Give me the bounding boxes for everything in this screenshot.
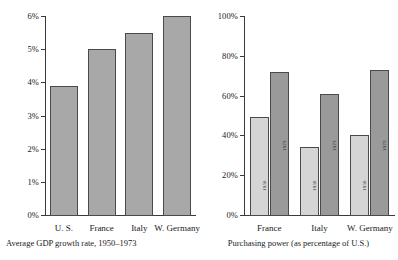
y-axis-tick-label: 20% <box>202 171 238 180</box>
y-axis-tick-label: 6% <box>3 12 39 21</box>
y-axis-tickmark <box>41 82 45 83</box>
y-axis-tick-label: 5% <box>3 45 39 54</box>
y-axis-tickmark <box>41 149 45 150</box>
bar-u-s <box>50 86 78 216</box>
y-axis-tick-label: 40% <box>202 131 238 140</box>
bar-series-label: 1973 <box>282 140 287 151</box>
y-axis-tick-label: 60% <box>202 92 238 101</box>
x-axis-category-label: W. Germany <box>339 224 398 233</box>
bar-italy <box>125 33 153 216</box>
y-axis-tickmark <box>41 215 45 216</box>
bar-series-label: 1950 <box>362 180 367 191</box>
bar-series-label: 1973 <box>332 140 337 151</box>
bar-france-1950 <box>250 117 269 216</box>
y-axis-tick-label: 80% <box>202 52 238 61</box>
y-axis-line <box>45 16 46 216</box>
two-panel-bar-figure: 0%1%2%3%4%5%6%U. S.FranceItalyW. Germany… <box>0 0 398 260</box>
y-axis-tick-label: 3% <box>3 112 39 121</box>
y-axis-tick-label: 2% <box>3 145 39 154</box>
y-axis-tickmark <box>41 116 45 117</box>
x-axis-category-label: W. Germany <box>152 224 202 233</box>
caption-gdp-growth: Average GDP growth rate, 1950–1973 <box>6 238 137 248</box>
y-axis-tick-label: 1% <box>3 178 39 187</box>
y-axis-line <box>244 16 245 216</box>
y-axis-tickmark <box>240 215 244 216</box>
y-axis-tick-label: 0% <box>202 211 238 220</box>
bar-series-label: 1973 <box>382 140 387 151</box>
bar-italy-1973 <box>320 94 339 216</box>
y-axis-tick-label: 100% <box>202 12 238 21</box>
y-axis-tick-label: 4% <box>3 78 39 87</box>
y-axis-tickmark <box>41 16 45 17</box>
y-axis-tick-label: 0% <box>3 211 39 220</box>
y-axis-tickmark <box>240 175 244 176</box>
y-axis-tickmark <box>240 135 244 136</box>
bar-w-germany <box>163 16 191 216</box>
y-axis-tickmark <box>41 49 45 50</box>
caption-purchasing-power: Purchasing power (as percentage of U.S.) <box>199 238 398 248</box>
panel-gdp-growth: 0%1%2%3%4%5%6%U. S.FranceItalyW. Germany… <box>0 0 199 260</box>
y-axis-tickmark <box>41 182 45 183</box>
bar-series-label: 1950 <box>312 180 317 191</box>
bar-series-label: 1950 <box>262 180 267 191</box>
y-axis-tickmark <box>240 96 244 97</box>
y-axis-tickmark <box>240 56 244 57</box>
bar-france <box>88 49 116 216</box>
y-axis-tickmark <box>240 16 244 17</box>
panel-purchasing-power: 0%20%40%60%80%100%19501973France19501973… <box>199 0 398 260</box>
bar-w-germany-1950 <box>350 135 369 216</box>
